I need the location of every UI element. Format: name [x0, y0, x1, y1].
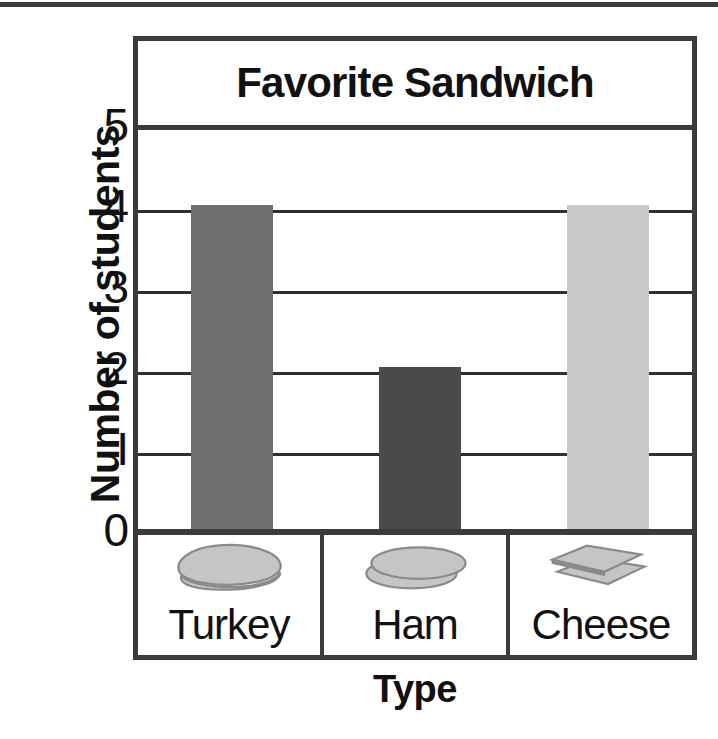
y-axis-tick-labels: 5432I0 — [60, 0, 128, 739]
chart-title-band: Favorite Sandwich — [138, 41, 692, 130]
y-axis-tick-1: I — [68, 426, 128, 472]
cheese-slice-icon — [526, 529, 676, 599]
y-axis-tick-2: 2 — [68, 345, 128, 391]
x-axis-category-ham: Ham — [324, 535, 510, 655]
chart-title: Favorite Sandwich — [236, 59, 594, 107]
x-axis-category-label: Ham — [372, 599, 458, 651]
bar-turkey — [191, 205, 273, 529]
chart-frame: Favorite Sandwich TurkeyHamCheese — [133, 36, 697, 660]
x-axis-category-label: Cheese — [532, 599, 671, 651]
x-axis-category-cheese: Cheese — [510, 535, 692, 655]
bar-cheese — [567, 205, 649, 529]
bar-ham — [379, 367, 461, 529]
ham-slice-icon — [340, 529, 490, 599]
plot-area — [138, 130, 692, 535]
y-axis-tick-4: 4 — [68, 183, 128, 229]
y-axis-tick-0: 0 — [68, 507, 128, 553]
x-axis-title: Type — [133, 668, 697, 711]
x-axis-category-row: TurkeyHamCheese — [138, 535, 692, 655]
turkey-slice-icon — [154, 529, 304, 599]
x-axis-category-label: Turkey — [169, 599, 290, 651]
y-axis-tick-3: 3 — [68, 264, 128, 310]
x-axis-category-turkey: Turkey — [138, 535, 324, 655]
y-axis-tick-5: 5 — [68, 102, 128, 148]
